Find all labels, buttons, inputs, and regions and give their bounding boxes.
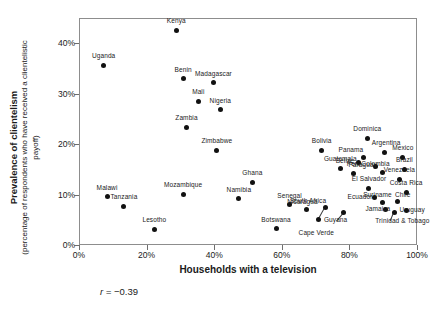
data-point-label: Madagascar xyxy=(195,70,232,77)
x-axis-title: Households with a television xyxy=(79,264,417,275)
data-point[interactable] xyxy=(196,99,201,104)
data-point-label: Botswana xyxy=(261,216,290,223)
data-point[interactable] xyxy=(250,180,255,185)
data-point-label: Lesotho xyxy=(142,216,166,223)
data-point-label: Ghana xyxy=(242,169,262,176)
data-point[interactable] xyxy=(395,199,400,204)
y-tick-mark xyxy=(74,144,79,145)
y-tick-mark xyxy=(74,43,79,44)
data-point-label: Trinidad & Tobago xyxy=(375,217,429,224)
data-point[interactable] xyxy=(365,136,370,141)
data-point-label: Chile xyxy=(395,191,410,198)
data-point-label: Venezuela xyxy=(384,166,415,173)
data-point[interactable] xyxy=(338,166,343,171)
data-point-label: Mali xyxy=(192,88,204,95)
x-tick-label: 100% xyxy=(406,250,428,260)
data-point[interactable] xyxy=(184,125,189,130)
data-point-label: South Africa xyxy=(290,197,326,204)
data-point-label: Suriname xyxy=(363,191,392,198)
data-point-label: Mozambique xyxy=(164,181,202,188)
y-tick-mark xyxy=(74,195,79,196)
data-point[interactable] xyxy=(174,28,179,33)
data-point-label: Jamaica xyxy=(365,205,390,212)
correlation-r-symbol: r = xyxy=(100,286,114,297)
x-tick-mark xyxy=(214,245,215,250)
x-tick-label: 40% xyxy=(206,250,223,260)
data-point[interactable] xyxy=(152,227,157,232)
data-point[interactable] xyxy=(218,107,223,112)
data-point[interactable] xyxy=(181,76,186,81)
y-tick-label: 10% xyxy=(58,190,75,200)
data-point-label: Benin xyxy=(175,66,192,73)
data-point[interactable] xyxy=(323,205,328,210)
plot-area: KenyaUgandaBeninMadagascarMaliNigeriaZam… xyxy=(79,18,417,245)
data-point[interactable] xyxy=(105,194,110,199)
correlation-annotation: r = −0.39 xyxy=(100,286,138,297)
data-point-label: Guyana xyxy=(324,216,347,223)
data-point-label: El Salvador xyxy=(352,175,386,182)
y-axis-title-main: Prevalence of clientelism xyxy=(8,28,19,268)
data-point[interactable] xyxy=(392,210,397,215)
scatter-plot-figure: Prevalence of clientelism (percentage of… xyxy=(0,0,433,312)
data-point-label: Cape Verde xyxy=(299,229,334,236)
y-axis-title-sub: (percentage of respondents who have rece… xyxy=(19,28,41,268)
x-tick-mark xyxy=(417,245,418,250)
data-point-label: Peru xyxy=(347,160,361,167)
data-point-label: Zambia xyxy=(175,114,197,121)
x-tick-label: 0% xyxy=(73,250,85,260)
data-point[interactable] xyxy=(382,150,387,155)
data-point-label: Malawi xyxy=(97,184,118,191)
x-tick-label: 60% xyxy=(273,250,290,260)
data-point-label: Costa Rica xyxy=(390,179,423,186)
y-tick-label: 20% xyxy=(58,139,75,149)
x-tick-mark xyxy=(349,245,350,250)
x-tick-mark xyxy=(147,245,148,250)
data-point-label: Mexico xyxy=(392,144,413,151)
data-point-label: Uruguay xyxy=(400,206,425,213)
y-tick-label: 40% xyxy=(58,38,75,48)
y-axis-title: Prevalence of clientelism (percentage of… xyxy=(8,28,41,268)
data-point-label: Namibia xyxy=(227,186,252,193)
data-point-label: Brazil xyxy=(396,156,413,163)
correlation-r-value: −0.39 xyxy=(114,286,138,297)
data-point-label: Tanzania xyxy=(111,193,138,200)
x-tick-mark xyxy=(282,245,283,250)
data-point[interactable] xyxy=(211,80,216,85)
data-point-label: Panama xyxy=(339,146,364,153)
data-point[interactable] xyxy=(236,196,241,201)
data-point[interactable] xyxy=(101,63,106,68)
data-point[interactable] xyxy=(341,210,346,215)
y-axis-ticks: 0%10%20%30%40% xyxy=(44,0,75,312)
x-tick-mark xyxy=(79,245,80,250)
data-point[interactable] xyxy=(121,204,126,209)
y-tick-label: 30% xyxy=(58,89,75,99)
x-tick-label: 80% xyxy=(341,250,358,260)
data-point[interactable] xyxy=(214,148,219,153)
data-point-label: Dominica xyxy=(353,125,381,132)
data-point-label: Kenya xyxy=(167,17,186,24)
data-point-label: Uganda xyxy=(92,52,115,59)
data-point[interactable] xyxy=(274,226,279,231)
data-point-label: Bolivia xyxy=(312,137,332,144)
data-point[interactable] xyxy=(316,217,321,222)
x-tick-label: 20% xyxy=(138,250,155,260)
data-point-label: Nigeria xyxy=(210,97,231,104)
y-tick-mark xyxy=(74,94,79,95)
data-point[interactable] xyxy=(319,148,324,153)
data-point[interactable] xyxy=(304,207,309,212)
data-point[interactable] xyxy=(181,192,186,197)
data-point-label: Zimbabwe xyxy=(201,137,232,144)
